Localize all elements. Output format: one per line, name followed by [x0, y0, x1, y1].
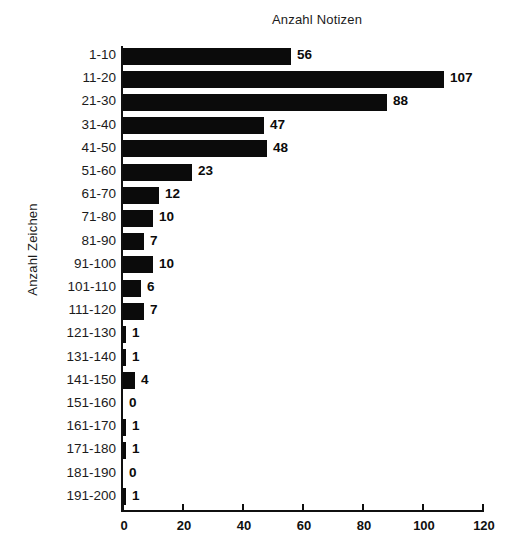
bar-row: 131-1401	[123, 348, 485, 371]
bar-value-label: 47	[270, 117, 285, 132]
bar-row: 151-1600	[123, 394, 485, 417]
bar	[123, 419, 126, 436]
bar-category-label: 161-170	[0, 418, 116, 433]
bar-value-label: 10	[159, 209, 174, 224]
x-axis-tick-label: 80	[344, 518, 384, 533]
x-axis-tick	[242, 504, 244, 511]
bar-category-label: 121-130	[0, 325, 116, 340]
bar-category-label: 191-200	[0, 488, 116, 503]
bar	[123, 488, 126, 505]
bar	[123, 233, 144, 250]
bar-category-label: 21-30	[0, 93, 116, 108]
bar	[123, 372, 135, 389]
bar-row: 1-1056	[123, 46, 485, 69]
bar-category-label: 181-190	[0, 465, 116, 480]
bar-row: 11-20107	[123, 69, 485, 92]
bar-chart: Anzahl Notizen Anzahl Zeichen 1-105611-2…	[0, 0, 510, 557]
bar-row: 61-7012	[123, 185, 485, 208]
bar-value-label: 1	[132, 349, 140, 364]
bar-category-label: 131-140	[0, 349, 116, 364]
x-axis-tick-label: 20	[164, 518, 204, 533]
bar-value-label: 0	[129, 465, 137, 480]
bar-value-label: 1	[132, 418, 140, 433]
bar-value-label: 10	[159, 256, 174, 271]
bar	[123, 349, 126, 366]
bar-category-label: 171-180	[0, 441, 116, 456]
bar-row: 21-3088	[123, 92, 485, 115]
bar-row: 141-1504	[123, 371, 485, 394]
bar-value-label: 23	[198, 163, 213, 178]
bar-row: 111-1207	[123, 301, 485, 324]
bar-value-label: 0	[129, 395, 137, 410]
bar	[123, 256, 153, 273]
bar-category-label: 141-150	[0, 372, 116, 387]
bar-value-label: 6	[147, 279, 155, 294]
chart-title: Anzahl Notizen	[123, 12, 510, 27]
bar-category-label: 71-80	[0, 209, 116, 224]
bar	[123, 280, 141, 297]
bar	[123, 303, 144, 320]
x-axis-tick-label: 60	[284, 518, 324, 533]
bar-row: 91-10010	[123, 255, 485, 278]
bar-row: 101-1106	[123, 278, 485, 301]
bar-row: 51-6023	[123, 162, 485, 185]
bar-category-label: 31-40	[0, 117, 116, 132]
bar	[123, 187, 159, 204]
bar-category-label: 11-20	[0, 70, 116, 85]
bar-value-label: 48	[273, 140, 288, 155]
bar-value-label: 107	[450, 70, 473, 85]
bar-category-label: 41-50	[0, 140, 116, 155]
bar-row: 191-2001	[123, 487, 485, 510]
x-axis-tick	[122, 504, 124, 511]
bar-value-label: 7	[150, 302, 158, 317]
bar-row: 71-8010	[123, 208, 485, 231]
bar-row: 81-907	[123, 232, 485, 255]
bar	[123, 71, 444, 88]
bar	[123, 48, 291, 65]
bar	[123, 442, 126, 459]
bar-value-label: 1	[132, 441, 140, 456]
bar	[123, 117, 264, 134]
x-axis-tick	[362, 504, 364, 511]
bar-value-label: 12	[165, 186, 180, 201]
bar-row: 181-1900	[123, 464, 485, 487]
bar-category-label: 151-160	[0, 395, 116, 410]
bar-value-label: 7	[150, 233, 158, 248]
bar-category-label: 1-10	[0, 47, 116, 62]
x-axis-tick-label: 120	[464, 518, 504, 533]
x-axis-tick-label: 100	[404, 518, 444, 533]
bar-value-label: 1	[132, 325, 140, 340]
bar-value-label: 56	[297, 47, 312, 62]
bar-value-label: 88	[393, 93, 408, 108]
x-axis-tick	[182, 504, 184, 511]
bar-row: 41-5048	[123, 139, 485, 162]
x-axis-tick-label: 0	[104, 518, 144, 533]
bar-category-label: 91-100	[0, 256, 116, 271]
x-axis-tick	[482, 504, 484, 511]
x-axis-tick	[422, 504, 424, 511]
bar-value-label: 1	[132, 488, 140, 503]
bar-row: 171-1801	[123, 440, 485, 463]
bar-category-label: 101-110	[0, 279, 116, 294]
bar	[123, 164, 192, 181]
bar-value-label: 4	[141, 372, 149, 387]
bar-category-label: 61-70	[0, 186, 116, 201]
bar-category-label: 51-60	[0, 163, 116, 178]
bar-category-label: 111-120	[0, 302, 116, 317]
bar	[123, 94, 387, 111]
bar-row: 121-1301	[123, 324, 485, 347]
x-axis-tick-label: 40	[224, 518, 264, 533]
bar	[123, 326, 126, 343]
plot-area: 1-105611-2010721-308831-404741-504851-60…	[123, 46, 485, 510]
bar	[123, 140, 267, 157]
bar-category-label: 81-90	[0, 233, 116, 248]
bar-row: 31-4047	[123, 116, 485, 139]
bar-row: 161-1701	[123, 417, 485, 440]
x-axis-tick	[302, 504, 304, 511]
bar	[123, 210, 153, 227]
